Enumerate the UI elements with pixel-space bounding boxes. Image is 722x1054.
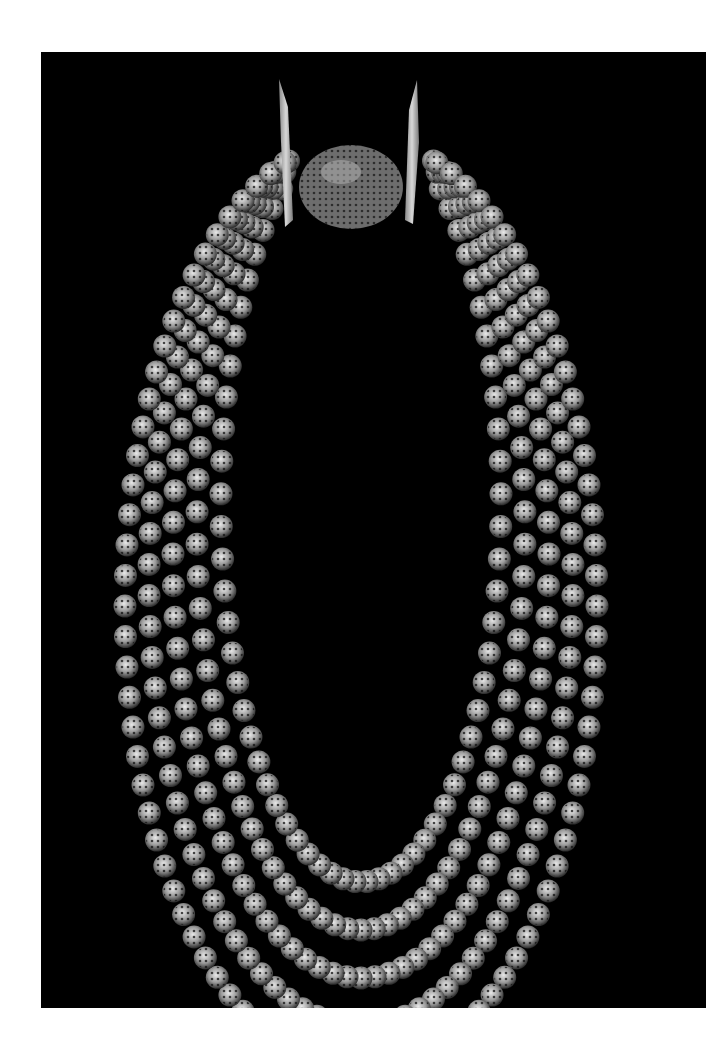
bead-strands [114, 149, 609, 1008]
photo-frame: Multi-strand silver filigree bead neckla… [41, 52, 706, 1008]
clasp [279, 79, 419, 229]
necklace-illustration [41, 52, 706, 1008]
clasp-right-bar [405, 80, 419, 224]
